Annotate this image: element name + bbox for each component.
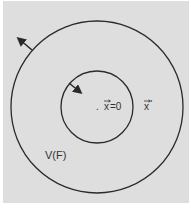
field-point-vector-x: x bbox=[144, 101, 149, 112]
inward-normal-arrow-icon bbox=[69, 83, 80, 92]
origin-dot: . bbox=[96, 101, 99, 112]
outward-normal-arrow-icon bbox=[19, 39, 32, 50]
field-point-prime: ' bbox=[151, 98, 153, 108]
origin-value: =0 bbox=[110, 101, 122, 112]
diagram-canvas: . x =0 x ' V(F) bbox=[0, 0, 191, 209]
origin-vector-x: x bbox=[104, 101, 109, 112]
region-label: V(F) bbox=[45, 149, 66, 161]
